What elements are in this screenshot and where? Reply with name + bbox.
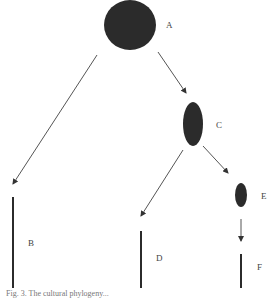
node-label-c: C: [216, 120, 222, 130]
figure-caption: Fig. 3. The cultural phylogeny...: [6, 289, 109, 298]
node-label-e: E: [261, 191, 267, 201]
node-label-f: F: [257, 262, 262, 272]
edge-c-e: [203, 146, 228, 173]
edge-c-d: [141, 150, 183, 216]
edges-group: [13, 52, 241, 241]
node-label-a: A: [166, 20, 173, 30]
node-a: [104, 0, 156, 50]
node-e: [235, 183, 247, 207]
edge-a-c: [158, 52, 186, 93]
node-label-d: D: [156, 253, 163, 263]
edge-a-b: [13, 55, 97, 184]
node-label-b: B: [28, 238, 34, 248]
nodes-group: ACEBDF: [13, 0, 267, 288]
node-c: [183, 102, 203, 146]
